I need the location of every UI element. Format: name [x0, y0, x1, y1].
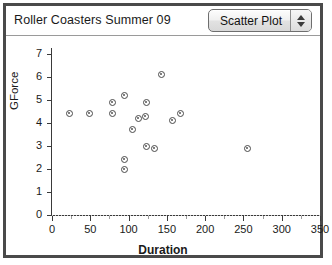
data-point[interactable]: [86, 110, 93, 117]
x-tick: [52, 216, 53, 221]
x-tick: [205, 216, 206, 221]
data-point[interactable]: [66, 110, 73, 117]
x-tick-minor: [148, 216, 149, 219]
x-tick: [282, 216, 283, 221]
data-point[interactable]: [121, 156, 128, 163]
plot-type-label: Scatter Plot: [209, 14, 290, 28]
data-point[interactable]: [109, 99, 116, 106]
scatter-plot: GForce Duration 01234567 050100150200250…: [6, 36, 320, 255]
x-tick-minor: [263, 216, 264, 219]
x-tick-label: 250: [223, 223, 263, 235]
y-tick-label: 4: [16, 116, 42, 128]
y-tick: [47, 169, 52, 170]
y-tick-label: 7: [16, 47, 42, 59]
x-tick-minor: [224, 216, 225, 219]
x-tick-label: 300: [262, 223, 302, 235]
data-point[interactable]: [158, 71, 165, 78]
data-point[interactable]: [177, 110, 184, 117]
y-tick: [47, 146, 52, 147]
y-tick-label: 3: [16, 139, 42, 151]
x-tick-label: 350: [300, 223, 332, 235]
x-tick: [90, 216, 91, 221]
data-point[interactable]: [121, 92, 128, 99]
x-tick-label: 200: [185, 223, 225, 235]
page-title: Roller Coasters Summer 09: [14, 13, 171, 27]
x-tick-label: 0: [32, 223, 72, 235]
x-tick: [167, 216, 168, 221]
data-point[interactable]: [121, 166, 128, 173]
y-tick-label: 1: [16, 185, 42, 197]
y-tick-label: 5: [16, 93, 42, 105]
data-point[interactable]: [244, 145, 251, 152]
y-tick: [47, 123, 52, 124]
data-point[interactable]: [169, 117, 176, 124]
plot-type-select[interactable]: Scatter Plot: [208, 9, 312, 32]
x-tick-minor: [186, 216, 187, 219]
data-point[interactable]: [109, 110, 116, 117]
y-tick-label: 0: [16, 208, 42, 220]
x-tick: [320, 216, 321, 221]
x-axis-title: Duration: [6, 243, 320, 257]
x-tick-label: 100: [109, 223, 149, 235]
x-tick-label: 150: [147, 223, 187, 235]
triangle-down-icon[interactable]: [297, 22, 305, 27]
y-tick: [47, 77, 52, 78]
y-tick: [47, 192, 52, 193]
x-tick-minor: [71, 216, 72, 219]
chart-window: Roller Coasters Summer 09 Scatter Plot G…: [3, 3, 323, 258]
plot-type-stepper[interactable]: [290, 10, 311, 31]
data-point[interactable]: [143, 143, 150, 150]
data-point[interactable]: [135, 115, 142, 122]
y-tick: [47, 100, 52, 101]
x-tick: [243, 216, 244, 221]
x-tick-minor: [109, 216, 110, 219]
header-bar: Roller Coasters Summer 09 Scatter Plot: [6, 6, 320, 36]
y-axis-line: [51, 48, 52, 216]
x-tick-label: 50: [70, 223, 110, 235]
data-point[interactable]: [142, 113, 149, 120]
y-tick: [47, 54, 52, 55]
x-tick-minor: [301, 216, 302, 219]
data-point[interactable]: [151, 145, 158, 152]
triangle-up-icon[interactable]: [297, 15, 305, 20]
y-tick-label: 6: [16, 70, 42, 82]
x-tick: [129, 216, 130, 221]
data-point[interactable]: [143, 99, 150, 106]
data-point[interactable]: [129, 126, 136, 133]
y-tick-label: 2: [16, 162, 42, 174]
window-inner: Roller Coasters Summer 09 Scatter Plot G…: [6, 6, 320, 255]
